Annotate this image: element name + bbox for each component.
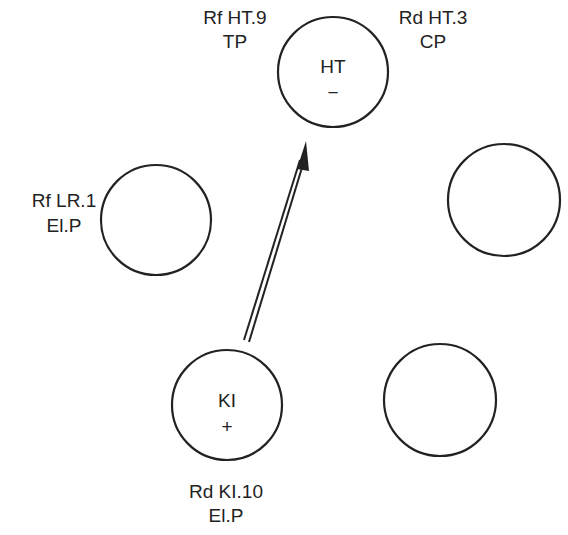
left-label-line2: El.P bbox=[47, 215, 82, 236]
node-ki: KI + bbox=[172, 350, 282, 460]
left-label-line1: Rf LR.1 bbox=[32, 190, 96, 211]
node-ht: HT − bbox=[278, 17, 388, 127]
ht-right-label-line1: Rd HT.3 bbox=[399, 7, 468, 28]
bottom-right-circle bbox=[384, 344, 496, 456]
ki-below-label-line2: El.P bbox=[209, 505, 244, 526]
ki-inner-label: KI bbox=[218, 390, 236, 411]
double-arrow-icon bbox=[244, 141, 309, 342]
ht-left-label-line1: Rf HT.9 bbox=[203, 7, 266, 28]
node-left bbox=[101, 165, 211, 275]
right-circle bbox=[448, 144, 560, 256]
five-element-diagram: HT − Rf HT.9 TP Rd HT.3 CP Rf LR.1 El.P … bbox=[0, 0, 568, 535]
ht-inner-label: HT bbox=[320, 56, 346, 77]
node-bottom-right bbox=[384, 344, 496, 456]
node-right bbox=[448, 144, 560, 256]
ht-left-label-line2: TP bbox=[223, 31, 247, 52]
ht-right-label-line2: CP bbox=[420, 31, 446, 52]
ki-below-label-line1: Rd KI.10 bbox=[189, 481, 263, 502]
left-circle bbox=[101, 165, 211, 275]
ki-plus-sign: + bbox=[221, 416, 232, 437]
ht-minus-sign: − bbox=[327, 82, 338, 103]
